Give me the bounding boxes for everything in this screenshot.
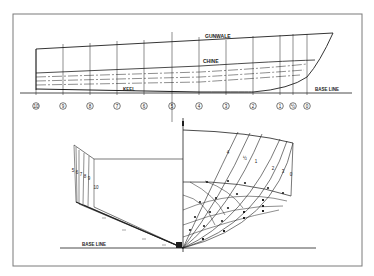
station-label: 4 (198, 104, 201, 109)
fwd-station-half (183, 133, 250, 248)
profile-base-line-label: BASE LINE (315, 87, 339, 92)
node (243, 211, 245, 213)
station-label: 7 (116, 104, 119, 109)
profile-view (20, 32, 352, 122)
node (215, 197, 217, 199)
node (282, 192, 284, 194)
fwd-station-2 (183, 139, 280, 248)
node (243, 217, 245, 219)
fwd-station-4 (183, 132, 238, 248)
keel-block (176, 242, 182, 248)
station-label: ½ (291, 103, 295, 109)
aft-station-label: 9 (88, 176, 91, 181)
centerline-marker (182, 121, 184, 126)
node (206, 181, 208, 183)
node (262, 205, 264, 207)
node (209, 211, 211, 213)
chine-line (36, 60, 315, 73)
fwd-station-label: ½ (243, 155, 247, 161)
node (227, 180, 229, 182)
aft-station-label: 5 (72, 168, 75, 173)
node (203, 225, 205, 227)
body-plan-fwd-labels: 4 ½ 1 2 3 0 (227, 150, 293, 177)
node (244, 182, 246, 184)
aft-station-8 (83, 153, 84, 205)
node (262, 210, 264, 212)
gunwale-line (36, 33, 333, 49)
station-labels: 10 9 8 7 6 5 4 3 2 1 ½ 0 (33, 103, 308, 109)
aft-station-label: 7 (80, 172, 83, 177)
node (223, 230, 225, 232)
fwd-station-1 (183, 134, 262, 248)
aft-station-6 (76, 147, 77, 203)
drawing-frame (13, 14, 362, 266)
node (267, 187, 269, 189)
station-label: 6 (143, 104, 146, 109)
aft-station-label: 8 (84, 174, 87, 179)
chine-label: CHINE (203, 58, 219, 64)
station-label: 10 (33, 104, 39, 109)
node (202, 238, 204, 240)
station-label: 5 (171, 104, 174, 109)
fwd-waterline-1 (183, 196, 287, 210)
node (221, 220, 223, 222)
node (189, 229, 191, 231)
aft-station-9 (88, 156, 89, 206)
keel-label: KEEL (123, 87, 135, 92)
station-label: 8 (89, 104, 92, 109)
station-label: 9 (62, 104, 65, 109)
fwd-diagonal-2 (190, 182, 225, 215)
station-label: 2 (252, 104, 255, 109)
keel-line (36, 89, 253, 92)
aft-bottom-4 (94, 207, 183, 248)
station-label: 3 (225, 104, 228, 109)
fwd-station-label: 2 (272, 166, 275, 171)
fwd-diagonal-1 (183, 195, 215, 225)
node (194, 216, 196, 218)
aft-station-label: 6 (76, 170, 79, 175)
node (236, 193, 238, 195)
waterline-1 (36, 64, 307, 77)
node (262, 199, 264, 201)
node (227, 207, 229, 209)
body-plan-base-line-label: BASE LINE (82, 242, 106, 247)
fwd-station-label: 4 (227, 150, 230, 155)
gunwale-label: GUNWALE (205, 33, 231, 39)
body-plan-aft-labels: 5 6 7 8 9 10 (72, 168, 99, 190)
station-label: 0 (306, 104, 309, 109)
fwd-station-label: 1 (255, 159, 258, 164)
fwd-station-label: 0 (290, 172, 293, 177)
lines-plan-diagram: GUNWALE CHINE KEEL BASE LINE 10 9 8 7 6 … (0, 0, 374, 276)
node (199, 201, 201, 203)
fwd-sheer-line (183, 130, 293, 143)
station-label: 1 (279, 104, 282, 109)
aft-station-label: 10 (93, 185, 99, 190)
